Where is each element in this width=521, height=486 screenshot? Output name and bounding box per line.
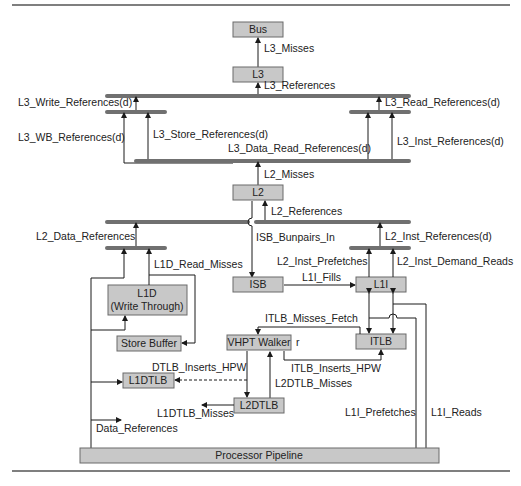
data-references-label: Data_References <box>96 422 178 434</box>
l1i-reads-label: L1I_Reads <box>431 406 482 418</box>
l1dtlb-label: L1DTLB <box>129 374 168 386</box>
l3-misses-label: L3_Misses <box>264 42 314 54</box>
l2-data-references-label: L2_Data_References <box>36 230 135 242</box>
isb-bunpairs-in-label: ISB_Bunpairs_In <box>256 231 335 243</box>
itlb-misses-fetch-label: ITLB_Misses_Fetch <box>265 312 358 324</box>
processor-pipeline-label: Processor Pipeline <box>215 449 303 461</box>
l1d-read-misses-label: L1D_Read_Misses <box>154 258 243 270</box>
l1d-label: L1D <box>137 287 157 299</box>
isb-label: ISB <box>250 278 267 290</box>
itlb-inserts-hpw-label: ITLB_Inserts_HPW <box>291 362 381 374</box>
l1d-subtitle: (Write Through) <box>110 300 183 312</box>
l1i-fills-label: L1I_Fills <box>302 271 341 283</box>
l3-references-label: L3_References <box>264 79 335 91</box>
l2-inst-references-label: L2_Inst_References(d) <box>385 230 492 242</box>
l1dtlb-misses-label: L1DTLB_Misses <box>157 407 234 419</box>
l2-references-label: L2_References <box>271 205 342 217</box>
l2-label: L2 <box>252 186 264 198</box>
vhpt-walker-label: VHPT Walker <box>227 336 291 348</box>
l3-store-references-label: L3_Store_References(d) <box>153 128 268 140</box>
l2dtlb-misses-label: L2DTLB_Misses <box>275 377 352 389</box>
r-label: r <box>296 336 300 348</box>
cache-hierarchy-diagram: Bus L3_Misses L3 L3_References L3_Write_… <box>0 0 521 486</box>
bus-label: Bus <box>249 23 267 35</box>
l1i-prefetches-label: L1I_Prefetches <box>345 406 416 418</box>
l2-inst-demand-reads-label: L2_Inst_Demand_Reads <box>397 255 513 267</box>
l1i-label: L1I <box>374 278 389 290</box>
l3-label: L3 <box>252 68 264 80</box>
store-buffer-label: Store Buffer <box>121 337 177 349</box>
l3-read-references-label: L3_Read_References(d) <box>385 96 500 108</box>
itlb-label: ITLB <box>370 335 392 347</box>
l2-misses-label: L2_Misses <box>264 168 314 180</box>
dtlb-inserts-hpw-label: DTLB_Inserts_HPW <box>152 361 247 373</box>
l2dtlb-label: L2DTLB <box>240 399 279 411</box>
l3-inst-references-label: L3_Inst_References(d) <box>397 135 504 147</box>
l3-write-references-label: L3_Write_References(d) <box>18 96 132 108</box>
l2-inst-prefetches-label: L2_Inst_Prefetches <box>277 255 367 267</box>
l3-data-read-references-label: L3_Data_Read_References(d) <box>228 142 371 154</box>
l3-wb-references-label: L3_WB_References(d) <box>18 131 125 143</box>
